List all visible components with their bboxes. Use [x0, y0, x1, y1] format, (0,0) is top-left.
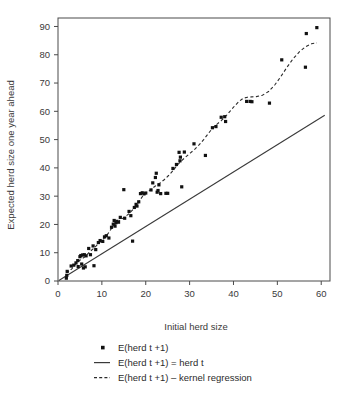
data-point — [113, 225, 116, 228]
data-point — [101, 240, 104, 243]
legend-item-label: E(herd t +1) – kernel regression — [118, 372, 252, 383]
data-point — [204, 154, 207, 157]
x-tick-label: 20 — [140, 288, 151, 299]
x-tick-label: 10 — [97, 288, 108, 299]
data-point — [214, 125, 217, 128]
data-point — [137, 200, 140, 203]
legend-square-marker — [101, 346, 105, 350]
data-point — [84, 265, 87, 268]
x-tick-label: 30 — [184, 288, 195, 299]
data-point — [119, 216, 122, 219]
data-point — [280, 58, 283, 61]
data-point — [77, 265, 80, 268]
data-point — [94, 248, 97, 251]
data-point — [315, 26, 318, 29]
y-tick-label: 40 — [39, 162, 50, 173]
y-tick-label: 60 — [39, 106, 50, 117]
y-tick-label: 90 — [39, 21, 50, 32]
data-point — [110, 226, 113, 229]
data-point — [89, 253, 92, 256]
y-tick-label: 10 — [39, 247, 50, 258]
y-tick-label: 20 — [39, 219, 50, 230]
y-tick-label: 0 — [45, 275, 50, 286]
data-point — [84, 254, 87, 257]
data-point — [122, 188, 125, 191]
data-point — [175, 163, 178, 166]
data-point — [80, 262, 83, 265]
data-point — [65, 274, 68, 277]
data-point — [305, 32, 308, 35]
data-point — [166, 192, 169, 195]
data-point — [107, 236, 110, 239]
data-point — [220, 116, 223, 119]
data-point — [154, 176, 157, 179]
data-point — [245, 100, 248, 103]
data-point — [117, 221, 120, 224]
data-point — [144, 191, 147, 194]
data-point — [76, 259, 79, 262]
data-point — [149, 188, 152, 191]
x-tick-label: 0 — [55, 288, 60, 299]
data-point — [211, 126, 214, 129]
data-point — [66, 270, 69, 273]
data-point — [179, 156, 182, 159]
data-point — [177, 151, 180, 154]
x-tick-label: 60 — [316, 288, 327, 299]
data-point — [156, 189, 159, 192]
data-point — [151, 181, 154, 184]
chart-figure: 0102030405060 0102030405060708090 Initia… — [0, 0, 346, 400]
data-point — [127, 210, 130, 213]
data-point — [92, 264, 95, 267]
scatter-chart: 0102030405060 0102030405060708090 Initia… — [0, 0, 346, 400]
chart-background — [0, 0, 346, 400]
legend-item-label: E(herd t +1) — [118, 342, 168, 353]
data-point — [223, 115, 226, 118]
y-tick-label: 50 — [39, 134, 50, 145]
data-point — [224, 120, 227, 123]
data-point — [159, 192, 162, 195]
data-point — [171, 167, 174, 170]
data-point — [268, 102, 271, 105]
data-point — [65, 277, 68, 280]
x-tick-label: 50 — [272, 288, 283, 299]
data-point — [123, 217, 126, 220]
data-point — [180, 185, 183, 188]
data-point — [157, 183, 160, 186]
data-point — [131, 240, 134, 243]
data-point — [87, 247, 90, 250]
data-point — [135, 204, 138, 207]
data-point — [155, 172, 158, 175]
data-point — [92, 244, 95, 247]
data-point — [178, 159, 181, 162]
y-axis-title: Expected herd size one year ahead — [5, 80, 16, 229]
x-axis-title: Initial herd size — [164, 321, 227, 332]
y-tick-label: 70 — [39, 77, 50, 88]
data-point — [183, 150, 186, 153]
y-tick-label: 80 — [39, 49, 50, 60]
data-point — [192, 142, 195, 145]
data-point — [250, 100, 253, 103]
data-point — [304, 66, 307, 69]
x-tick-label: 40 — [228, 288, 239, 299]
data-point — [129, 214, 132, 217]
y-tick-label: 30 — [39, 191, 50, 202]
legend-item-label: E(herd t +1) = herd t — [118, 357, 204, 368]
